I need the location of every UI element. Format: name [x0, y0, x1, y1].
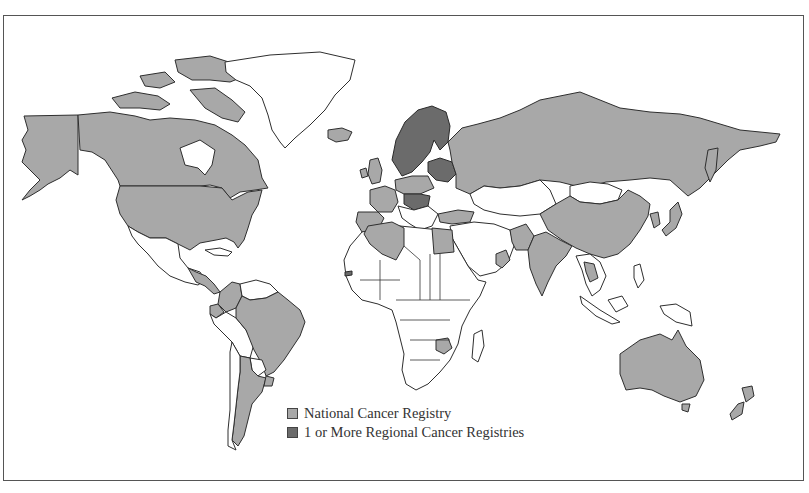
region-egypt — [432, 228, 454, 254]
region-indonesia — [580, 296, 692, 326]
legend-swatch-national — [287, 408, 298, 419]
region-russia — [448, 92, 780, 196]
region-gambia — [345, 271, 352, 276]
region-madagascar — [472, 330, 484, 362]
region-uk — [368, 158, 382, 184]
region-alaska — [22, 115, 78, 200]
region-tasmania — [682, 404, 690, 412]
legend-item-national: National Cancer Registry — [287, 404, 524, 423]
region-korea — [650, 212, 660, 228]
region-germany-poland — [395, 176, 434, 194]
region-japan — [662, 202, 682, 236]
map-legend: National Cancer Registry 1 or More Regio… — [287, 404, 524, 442]
region-cuba — [205, 248, 232, 256]
region-canada — [78, 112, 268, 198]
legend-item-regional: 1 or More Regional Cancer Registries — [287, 423, 524, 442]
region-new-zealand — [730, 386, 754, 420]
legend-swatch-regional — [287, 427, 298, 438]
region-uruguay — [264, 376, 274, 386]
region-iceland — [328, 128, 352, 142]
region-france — [370, 186, 398, 212]
region-turkey — [438, 210, 474, 224]
region-ireland — [360, 168, 368, 178]
legend-label-regional: 1 or More Regional Cancer Registries — [304, 423, 524, 442]
region-australia — [620, 330, 704, 402]
legend-label-national: National Cancer Registry — [304, 404, 451, 423]
region-philippines — [634, 264, 644, 288]
